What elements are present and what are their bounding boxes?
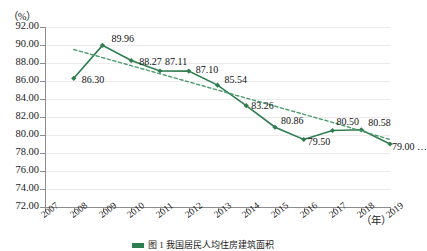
data-point-value-label: 87.11	[165, 56, 187, 67]
y-axis-tick-label: 72.00	[1, 200, 39, 211]
data-point-value-label: 80.86	[281, 115, 304, 126]
data-point-value-label: 83.26	[251, 100, 274, 111]
y-axis-tick-label: 74.00	[1, 182, 39, 193]
data-point-value-label: 86.30	[82, 74, 105, 85]
data-point-value-label: 80.58	[368, 117, 391, 128]
data-point-marker	[301, 137, 306, 142]
y-axis-tick-label: 76.00	[1, 164, 39, 175]
y-axis-tick-label: 90.00	[1, 38, 39, 49]
data-point-value-label: 89.96	[112, 33, 135, 44]
data-point-value-label: 85.54	[225, 74, 248, 85]
caption-text: 图 1 我国居民人均住房建筑面积	[148, 240, 274, 250]
y-axis-tick-label: 80.00	[1, 128, 39, 139]
y-axis-tick-label: 92.00	[1, 20, 39, 31]
y-axis-tick-label: 86.00	[1, 74, 39, 85]
data-point-marker	[330, 128, 335, 133]
y-axis-tick-label: 78.00	[1, 146, 39, 157]
y-axis-tick-label: 82.00	[1, 110, 39, 121]
data-point-value-label: 79.50	[308, 136, 331, 147]
data-point-value-label: 88.27	[139, 56, 162, 67]
data-point-value-label: 79.00 …	[392, 141, 427, 152]
figure-caption: 图 1 我国居民人均住房建筑面积	[0, 238, 406, 251]
y-axis-tick-label: 84.00	[1, 92, 39, 103]
legend-swatch-icon	[132, 243, 144, 248]
y-axis-tick-label: 88.00	[1, 56, 39, 67]
data-point-value-label: 80.50	[337, 116, 360, 127]
data-point-marker	[186, 69, 191, 74]
data-point-value-label: 87.10	[196, 64, 219, 75]
